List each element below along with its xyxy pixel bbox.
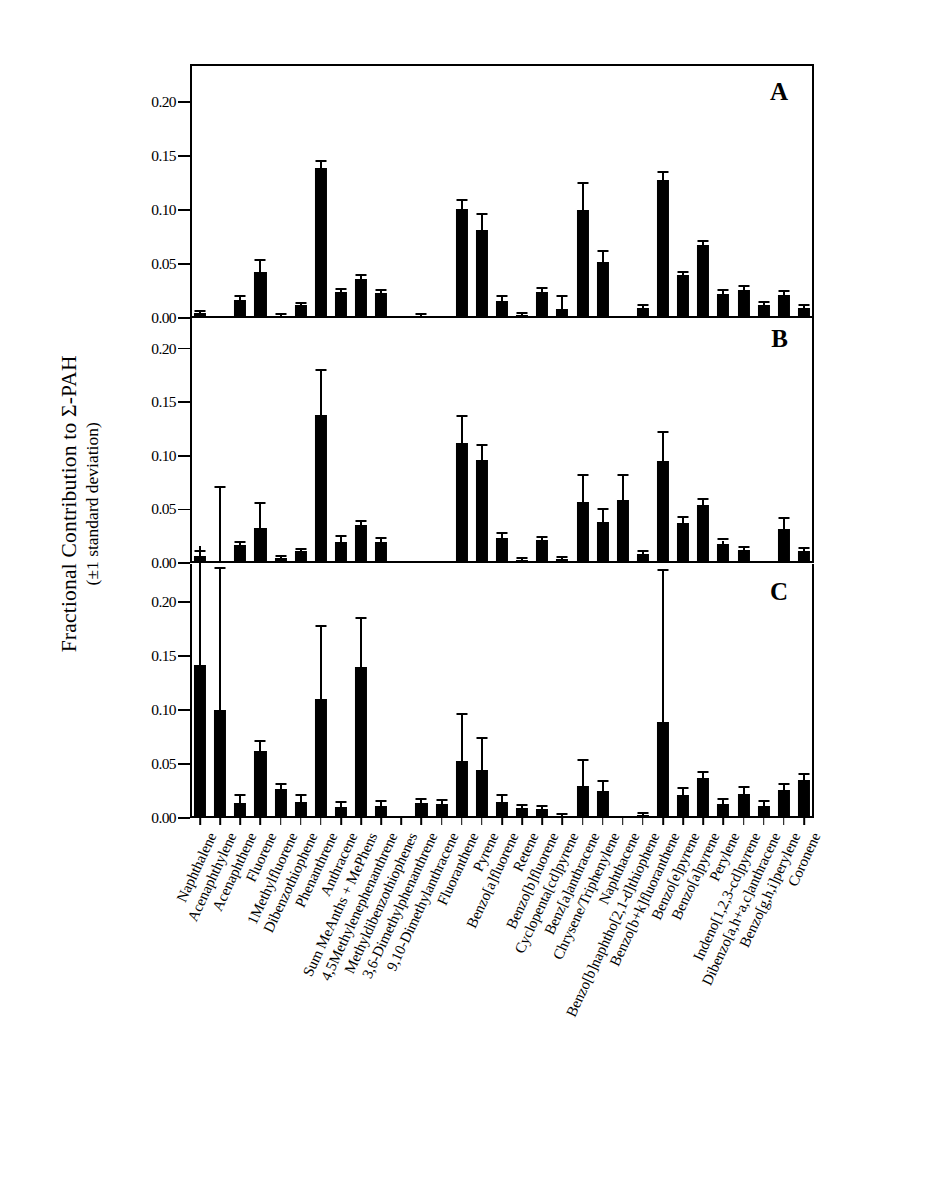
error-bar (340, 537, 342, 541)
bar-group (794, 64, 814, 318)
bar (476, 770, 488, 818)
error-bar (642, 552, 644, 554)
bar-group (371, 311, 391, 563)
bar (516, 560, 528, 563)
y-axis-tick-label: 0.05 (151, 255, 176, 273)
bar-group (633, 64, 653, 318)
error-bar (521, 559, 523, 560)
panel-b: 0.000.050.100.150.20B (190, 311, 814, 563)
bar-group (593, 564, 613, 818)
error-bar (803, 306, 805, 308)
error-bar-cap (376, 289, 387, 291)
error-bar (803, 549, 805, 551)
bar-group (572, 564, 592, 818)
bar (275, 558, 287, 563)
x-axis-tick (682, 818, 684, 825)
error-bar-cap (215, 567, 226, 569)
bar-group (633, 564, 653, 818)
error-bar (743, 548, 745, 550)
plot-area (190, 311, 814, 563)
bar-group (794, 564, 814, 818)
bar (697, 245, 709, 318)
y-axis-tick-label: 0.20 (151, 593, 176, 611)
bar-group (774, 311, 794, 563)
error-bar-cap (275, 783, 286, 785)
error-bar (682, 273, 684, 275)
bar-group (713, 564, 733, 818)
error-bar-cap (617, 474, 628, 476)
bar-group (754, 64, 774, 318)
x-axis-tick (602, 818, 604, 825)
error-bar (622, 476, 624, 500)
bar (677, 795, 689, 818)
error-bar-cap (678, 787, 689, 789)
bar (798, 551, 810, 563)
error-bar (300, 550, 302, 551)
error-bar (763, 303, 765, 305)
bar-group (552, 564, 572, 818)
error-bar-cap (356, 520, 367, 522)
error-bar (783, 785, 785, 790)
error-bar (743, 287, 745, 290)
error-bar-cap (577, 182, 588, 184)
bar-group (432, 564, 452, 818)
bar-group (190, 311, 210, 563)
bar (214, 710, 226, 818)
y-axis-tick-label: 0.00 (151, 309, 176, 327)
error-bar (582, 761, 584, 786)
bar (335, 542, 347, 563)
error-bar-cap (295, 302, 306, 304)
error-bar-cap (698, 498, 709, 500)
bar-group (613, 311, 633, 563)
x-axis-tick (320, 818, 322, 825)
x-axis-tick (340, 818, 342, 825)
x-axis-tick-labels: NaphthaleneAcenaphthyleneAcenaphtheneFlu… (190, 830, 814, 1170)
bar (778, 529, 790, 563)
bar-group (210, 311, 230, 563)
error-bar-cap (798, 304, 809, 306)
error-bar (259, 742, 261, 751)
bar (315, 168, 327, 318)
bar-group (512, 311, 532, 563)
y-axis-tick-label: 0.10 (151, 701, 176, 719)
bar (657, 722, 669, 818)
error-bar-cap (778, 290, 789, 292)
error-bar (481, 215, 483, 230)
error-bar-cap (537, 536, 548, 538)
bar (456, 209, 468, 318)
error-bar (541, 538, 543, 540)
error-bar (561, 297, 563, 309)
error-bar (360, 276, 362, 279)
error-bar (702, 242, 704, 244)
bar-group (754, 311, 774, 563)
error-bar (300, 304, 302, 305)
bar-group (331, 564, 351, 818)
bar-group (492, 64, 512, 318)
x-axis-tick (260, 818, 262, 825)
y-axis-tick-label: 0.20 (151, 93, 176, 111)
bar-group (673, 564, 693, 818)
y-axis-tick (178, 601, 190, 603)
error-bar-cap (335, 288, 346, 290)
error-bar (702, 500, 704, 505)
bar-group (774, 64, 794, 318)
x-axis-tick (702, 818, 704, 825)
plot-area (190, 64, 814, 318)
bar-group (411, 64, 431, 318)
bar (456, 761, 468, 818)
bar (496, 538, 508, 563)
error-bar (783, 519, 785, 529)
error-bar-cap (436, 799, 447, 801)
bar (576, 502, 588, 563)
bar (395, 562, 407, 564)
bar-group (713, 311, 733, 563)
x-axis-tick (743, 818, 745, 825)
bar-group (210, 64, 230, 318)
bar (576, 786, 588, 818)
x-axis-tick (219, 818, 221, 825)
bar-group (351, 311, 371, 563)
error-bar-cap (577, 759, 588, 761)
error-bar-cap (637, 812, 648, 814)
x-axis-tick (461, 818, 463, 825)
error-bar-cap (476, 213, 487, 215)
